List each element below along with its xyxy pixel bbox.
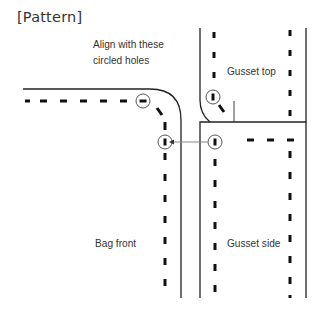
gusset-top-seam-corner — [219, 105, 224, 112]
gusset-side-cut-line — [200, 122, 306, 298]
gusset-side-piece — [200, 122, 306, 298]
bag-front-piece — [23, 89, 181, 298]
gusset-top-piece — [200, 28, 306, 122]
gusset-top-left-line — [200, 28, 210, 122]
gusset-side-circled-hole — [208, 135, 222, 149]
bag-front-seam-corner — [157, 108, 162, 115]
bag-front-top-circled-hole — [136, 94, 150, 108]
alignment-arrow-icon — [169, 140, 208, 145]
pattern-drawing — [0, 0, 329, 315]
gusset-top-circled-hole — [206, 90, 220, 104]
bag-front-cut-line — [23, 89, 181, 298]
